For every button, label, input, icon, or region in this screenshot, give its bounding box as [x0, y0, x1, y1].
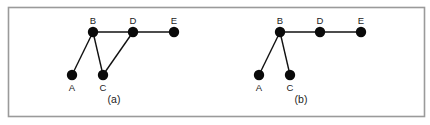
edge-a-b-c [93, 32, 103, 75]
node-a-c [98, 70, 108, 80]
node-label-b-e: E [358, 15, 364, 26]
node-label-b-b: B [277, 15, 283, 26]
edge-b-b-c [280, 32, 290, 75]
edge-a-d-c [103, 32, 133, 75]
node-a-a [67, 70, 77, 80]
graph-panel-b: ABCDE (b) [254, 15, 366, 105]
edge-a-b-a [72, 32, 93, 75]
node-a-e [169, 27, 179, 37]
node-a-d [128, 27, 138, 37]
node-b-a [254, 70, 264, 80]
edges-b [259, 32, 361, 75]
nodes-a: ABCDE [67, 15, 179, 93]
caption-a: (a) [108, 93, 121, 105]
edge-b-b-a [259, 32, 280, 75]
node-label-b-d: D [317, 15, 324, 26]
node-b-d [315, 27, 325, 37]
node-label-a-a: A [69, 82, 76, 93]
node-label-a-c: C [100, 82, 107, 93]
graph-figure: ABCDE (a) ABCDE (b) [0, 0, 430, 125]
node-b-b [275, 27, 285, 37]
node-a-b [88, 27, 98, 37]
node-label-b-a: A [256, 82, 263, 93]
node-b-c [285, 70, 295, 80]
node-label-a-b: B [90, 15, 96, 26]
edges-a [72, 32, 174, 75]
node-b-e [356, 27, 366, 37]
nodes-b: ABCDE [254, 15, 366, 93]
caption-b: (b) [295, 93, 308, 105]
node-label-b-c: C [287, 82, 294, 93]
node-label-a-d: D [130, 15, 137, 26]
graph-panel-a: ABCDE (a) [67, 15, 179, 105]
node-label-a-e: E [171, 15, 177, 26]
